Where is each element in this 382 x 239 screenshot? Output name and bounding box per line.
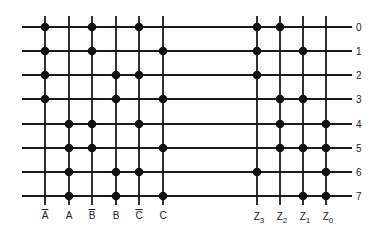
connection-dot (322, 168, 331, 177)
connection-dot (135, 168, 144, 177)
row-label: 4 (356, 119, 362, 130)
row-label: 2 (356, 70, 362, 81)
row-label: 5 (356, 143, 362, 154)
output-column-label: Z1 (300, 211, 311, 225)
connection-dot (112, 192, 121, 201)
connection-dot (322, 144, 331, 153)
row-label: 1 (356, 46, 362, 57)
connection-dot (322, 120, 331, 129)
row-label: 7 (356, 191, 362, 202)
connection-dot (88, 47, 97, 56)
output-column-label: Z3 (254, 211, 265, 225)
connection-dot (299, 95, 308, 104)
connection-dot (299, 47, 308, 56)
connection-dot (276, 95, 285, 104)
connection-dot (135, 120, 144, 129)
connection-dot (41, 95, 50, 104)
input-column-label: C (135, 210, 142, 221)
input-column-label: A (42, 210, 49, 221)
connection-dot (112, 95, 121, 104)
connection-dot (65, 144, 74, 153)
decoder-rom-diagram (0, 0, 382, 239)
connection-dot (112, 168, 121, 177)
connection-dot (253, 47, 262, 56)
connection-dot (65, 120, 74, 129)
connection-dot (322, 192, 331, 201)
connection-dot (253, 71, 262, 80)
connection-dot (159, 47, 168, 56)
connection-dot (276, 120, 285, 129)
connection-dot (88, 120, 97, 129)
row-label: 3 (356, 94, 362, 105)
connection-dot (299, 144, 308, 153)
connection-dot (65, 192, 74, 201)
input-column-label: B (89, 210, 96, 221)
connection-dot (41, 23, 50, 32)
connection-dot (41, 71, 50, 80)
connection-dot (88, 23, 97, 32)
connection-dot (41, 47, 50, 56)
connection-dot (112, 71, 121, 80)
connection-dot (159, 95, 168, 104)
connection-dot (299, 192, 308, 201)
connection-dot (65, 168, 74, 177)
connection-dot (159, 144, 168, 153)
row-label: 0 (356, 22, 362, 33)
connection-dot (88, 144, 97, 153)
output-column-label: Z0 (323, 211, 334, 225)
connection-dot (135, 71, 144, 80)
connection-dot (135, 23, 144, 32)
input-column-label: C (159, 210, 166, 221)
connection-dot (159, 192, 168, 201)
output-column-label: Z2 (277, 211, 288, 225)
connection-dot (253, 168, 262, 177)
input-column-label: A (66, 210, 73, 221)
connection-dot (253, 23, 262, 32)
row-label: 6 (356, 167, 362, 178)
connection-dot (276, 144, 285, 153)
connection-dot (276, 23, 285, 32)
input-column-label: B (113, 210, 120, 221)
